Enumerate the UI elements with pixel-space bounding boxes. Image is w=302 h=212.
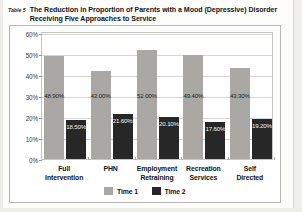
- table-caption: Table 5 The Reduction in Proportion of P…: [8, 6, 280, 23]
- y-axis-tick-mark: [39, 139, 42, 140]
- bar-value-label: 49.40%: [184, 92, 204, 99]
- bar-time-1: [91, 71, 111, 159]
- category-label: PHN: [103, 165, 117, 174]
- gridline: [42, 34, 272, 35]
- y-axis-tick-mark: [39, 76, 42, 77]
- y-axis-tick-mark: [39, 55, 42, 56]
- legend-item-time-2: Time 2: [152, 187, 186, 195]
- bar-value-label: 21.60%: [113, 117, 133, 124]
- category-label: Full Intervention: [45, 165, 83, 182]
- y-axis-tick-mark: [39, 97, 42, 98]
- legend-swatch-time-2: [152, 187, 161, 195]
- legend-label-time-1: Time 1: [117, 188, 138, 195]
- legend-swatch-time-1: [104, 187, 113, 195]
- plot-area: 0%10%20%30%40%50%60%48.90%18.50%42.00%21…: [41, 32, 273, 160]
- y-axis-tick-mark: [39, 118, 42, 119]
- category-label: Recreation Services: [186, 165, 221, 182]
- bar-time-1: [183, 55, 203, 159]
- bar-value-label: 19.20%: [252, 122, 272, 129]
- y-axis-tick-mark: [39, 34, 42, 35]
- y-axis-tick-label: 30%: [26, 94, 38, 101]
- y-axis-tick-label: 0%: [29, 157, 38, 164]
- category-label: Employment Retraining: [137, 165, 177, 182]
- bar-time-1: [137, 50, 157, 159]
- x-axis-tick-mark: [228, 157, 229, 160]
- scanned-page: Table 5 The Reduction in Proportion of P…: [0, 0, 302, 212]
- plot-area-wrapper: 0%10%20%30%40%50%60%48.90%18.50%42.00%21…: [41, 32, 273, 160]
- x-axis-tick-mark: [274, 157, 275, 160]
- y-axis-tick-label: 40%: [26, 73, 38, 80]
- table-number: Table 5: [8, 6, 30, 14]
- y-axis-tick-label: 50%: [26, 52, 38, 59]
- y-axis-tick-mark: [39, 160, 42, 161]
- page-edge-left: [0, 0, 3, 212]
- x-axis-tick-mark: [88, 157, 89, 160]
- bar-value-label: 52.00%: [137, 92, 157, 99]
- y-axis-tick-label: 60%: [26, 31, 38, 38]
- bar-value-label: 17.60%: [206, 125, 226, 132]
- chart-container: 0%10%20%30%40%50%60%48.90%18.50%42.00%21…: [9, 25, 281, 203]
- bar-value-label: 43.30%: [230, 92, 250, 99]
- page-edge-right: [293, 0, 302, 212]
- bar-value-label: 18.50%: [66, 123, 86, 130]
- bar-value-label: 20.10%: [159, 120, 179, 127]
- bar-time-1: [44, 56, 64, 159]
- y-axis-tick-label: 20%: [26, 115, 38, 122]
- legend-item-time-1: Time 1: [104, 187, 138, 195]
- bar-time-1: [230, 68, 250, 159]
- x-axis-tick-mark: [135, 157, 136, 160]
- page-title: The Reduction in Proportion of Parents w…: [30, 6, 280, 23]
- legend-label-time-2: Time 2: [165, 188, 186, 195]
- category-label: Self Directed: [236, 165, 263, 182]
- chart-legend: Time 1 Time 2: [10, 187, 280, 195]
- page-edge-bottom: [0, 208, 302, 212]
- bar-value-label: 42.00%: [91, 92, 111, 99]
- bar-value-label: 48.90%: [44, 92, 64, 99]
- y-axis-tick-label: 10%: [26, 136, 38, 143]
- gridline: [42, 55, 272, 56]
- x-axis-tick-mark: [181, 157, 182, 160]
